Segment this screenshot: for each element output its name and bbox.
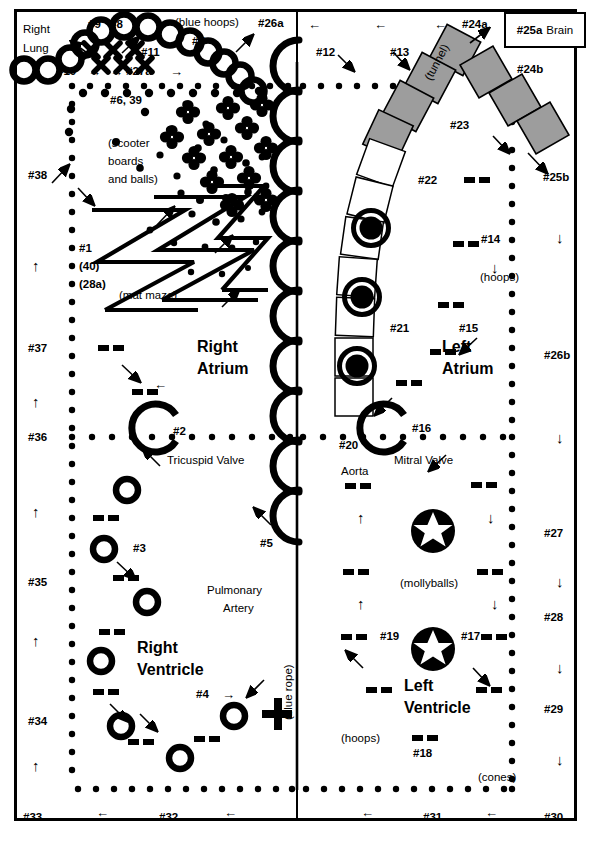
tag-17: #17	[461, 631, 480, 643]
tag-15: #15	[459, 323, 478, 335]
tag-4: #4	[196, 689, 209, 701]
arrow-up-lv2: ↑	[357, 596, 365, 611]
tag-5: #5	[260, 538, 273, 550]
arrow-left-31b: ←	[485, 806, 498, 819]
ring-path-left-ventricle	[90, 479, 245, 769]
arrow-right-4: →	[222, 688, 235, 701]
tag-6-39: #6, 39	[110, 95, 142, 107]
pulmonary-artery-l1: Pulmonary	[207, 585, 262, 597]
tag-26b: #26b	[544, 350, 570, 362]
diagram-canvas: Right Lung #9 #8 (blue hoops) #7 #26a #1…	[0, 0, 591, 849]
tag-13: #13	[390, 47, 409, 59]
arrow-down-r3: ↓	[556, 574, 564, 589]
c-arc-group	[273, 40, 299, 542]
arrow-right-3: →	[170, 65, 183, 78]
note-blue-rope: (blue rope)	[283, 664, 295, 720]
right-lung-label-line1: Right	[23, 24, 50, 36]
right-atrium-label-l1: Right	[197, 339, 238, 355]
tag-37: #37	[28, 343, 47, 355]
left-atrium-label-l1: Left	[442, 339, 471, 355]
arrow-left-32b: ←	[224, 806, 237, 819]
aorta-label: Aorta	[341, 466, 369, 478]
tricuspid-valve-arc	[132, 404, 176, 452]
right-lung-label-line2: Lung	[23, 43, 49, 55]
tag-1-28a: (28a)	[79, 279, 106, 291]
tag-31: #31	[423, 812, 442, 824]
arrow-up-34: ↑	[32, 758, 40, 773]
tag-11: #11	[141, 47, 160, 59]
note-scooter-3: and balls)	[108, 174, 158, 186]
arrow-up-37: ↑	[32, 394, 40, 409]
tricuspid-valve-label: Tricuspid Valve	[167, 455, 244, 467]
note-mat-maze: (mat maze)	[119, 290, 177, 302]
tag-36: #36	[28, 432, 47, 444]
diagram-vector-layer	[0, 0, 591, 849]
tag-18: #18	[413, 748, 432, 760]
tag-7: #7	[192, 36, 205, 48]
arrow-left-top-2: ←	[374, 18, 387, 31]
arrow-left-32a: ←	[96, 806, 109, 819]
pointer-arrows	[52, 29, 546, 730]
right-atrium-label-l2: Atrium	[197, 361, 249, 377]
tag-24a: #24a	[462, 19, 488, 31]
tag-1: #1	[79, 243, 92, 255]
left-atrium-label-l2: Atrium	[442, 361, 494, 377]
right-ventricle-label-l2: Ventricle	[137, 662, 204, 678]
tag-9: #9	[88, 19, 101, 31]
tag-27: #27	[544, 528, 563, 540]
tag-32: #32	[159, 812, 178, 824]
arrow-down-r2: ↓	[556, 430, 564, 445]
arrow-down-r4: ↓	[556, 660, 564, 675]
tag-35: #35	[28, 577, 47, 589]
arrow-down-r5: ↓	[556, 752, 564, 767]
arrow-left-31a: ←	[361, 806, 374, 819]
tag-34: #34	[28, 716, 47, 728]
note-blue-hoops: (blue hoops)	[175, 17, 239, 29]
tag-25b: #25b	[543, 172, 569, 184]
arrow-down-lv2: ↓	[491, 596, 499, 611]
arrow-right-2: →	[110, 65, 123, 78]
tag-14: #14	[481, 234, 500, 246]
tag-3: #3	[133, 543, 146, 555]
left-ventricle-label-l2: Ventricle	[404, 700, 471, 716]
arrow-down-r1: ↓	[556, 230, 564, 245]
arrow-up-38: ↑	[32, 258, 40, 273]
arrow-up-lv1: ↑	[357, 510, 365, 525]
mitral-valve-arc	[360, 404, 404, 452]
arrow-left-ra: ←	[154, 378, 167, 391]
arrow-left-top-1: ←	[308, 18, 321, 31]
tag-16: #16	[412, 423, 431, 435]
note-hoops-left: (hoops)	[341, 733, 380, 745]
pulmonary-artery-l2: Artery	[223, 603, 254, 615]
tag-29: #29	[544, 704, 563, 716]
arrow-up-35: ↑	[32, 633, 40, 648]
tag-24b: #24b	[517, 64, 543, 76]
arrow-left-top-3: ←	[434, 18, 447, 31]
mollyball-group	[411, 509, 455, 671]
tag-21: #21	[390, 323, 409, 335]
tag-23: #23	[450, 120, 469, 132]
note-hoops-right: (hoops)	[480, 272, 519, 284]
tag-25a: #25a	[517, 24, 543, 36]
arrow-up-36: ↑	[32, 504, 40, 519]
left-ventricle-label-l1: Left	[404, 678, 433, 694]
tag-26a: #26a	[258, 18, 284, 30]
tag-33: #33	[23, 812, 42, 824]
tag-1-40: (40)	[79, 261, 99, 273]
tag-20: #20	[339, 440, 358, 452]
tag-22: #22	[418, 175, 437, 187]
arrow-down-lv1: ↓	[487, 510, 495, 525]
tag-10: #10	[57, 66, 76, 78]
arrow-right-1: →	[88, 65, 101, 78]
brain-word: Brain	[546, 24, 573, 36]
tag-27a: #27a	[126, 66, 152, 78]
note-scooter-1: (scooter	[108, 138, 150, 150]
note-scooter-2: boards	[108, 156, 143, 168]
tag-30: #30	[544, 812, 563, 824]
note-mollyballs: (mollyballs)	[400, 578, 458, 590]
tag-2: #2	[173, 426, 186, 438]
tag-8: #8	[110, 19, 123, 31]
tag-38: #38	[28, 170, 47, 182]
brain-box: #25a Brain	[504, 12, 586, 48]
tag-19: #19	[380, 631, 399, 643]
